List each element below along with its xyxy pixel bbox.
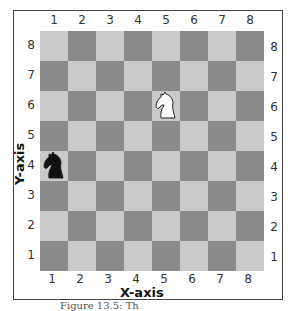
board-square [180,121,208,151]
board-square [236,211,264,241]
row-label: 5 [267,130,281,144]
row-label: 2 [267,220,281,234]
x-axis-label: X-axis [120,285,164,300]
board-square [180,151,208,181]
board-square [40,211,68,241]
board-square [208,211,236,241]
board-square [180,31,208,61]
board-square [180,61,208,91]
black-knight-icon [41,151,67,181]
col-label: 3 [94,272,122,286]
board-square [208,241,236,271]
row-label: 4 [267,160,281,174]
board-square [152,241,180,271]
board-square [40,181,68,211]
board-square [124,181,152,211]
board-square [124,61,152,91]
row-label: 1 [24,248,38,262]
board-square [68,151,96,181]
board-square [68,211,96,241]
row-label: 6 [267,100,281,114]
board-square [68,241,96,271]
col-label: 3 [96,13,124,27]
board-square [40,91,68,121]
board-square [180,91,208,121]
col-label: 4 [122,272,150,286]
board-square [236,91,264,121]
col-label: 5 [152,13,180,27]
board-square [96,181,124,211]
board-square [40,31,68,61]
board-square [40,61,68,91]
board-square [152,211,180,241]
board-square [152,91,180,121]
board-square [236,241,264,271]
row-label: 7 [24,68,38,82]
board-square [180,181,208,211]
figure-caption: Figure 13.5: Th [60,300,139,311]
chess-board [40,31,264,271]
board-square [124,151,152,181]
board-square [68,181,96,211]
board-square [236,181,264,211]
board-square [236,31,264,61]
row-label: 6 [24,98,38,112]
col-label: 1 [38,272,66,286]
col-label: 6 [180,13,208,27]
board-square [96,211,124,241]
col-label: 1 [40,13,68,27]
board-square [124,31,152,61]
board-square [208,61,236,91]
col-label: 4 [124,13,152,27]
board-square [124,91,152,121]
board-square [236,151,264,181]
board-square [68,61,96,91]
board-square [96,91,124,121]
board-square [96,31,124,61]
row-label: 7 [267,70,281,84]
board-square [208,151,236,181]
col-label: 2 [66,272,94,286]
row-label: 3 [267,190,281,204]
board-square [152,181,180,211]
board-square [40,121,68,151]
board-square [68,91,96,121]
col-label: 7 [206,272,234,286]
board-square [152,151,180,181]
col-label: 6 [178,272,206,286]
board-square [208,31,236,61]
board-square [96,61,124,91]
y-axis-label: Y-axis [12,143,27,185]
board-square [68,121,96,151]
col-label: 5 [150,272,178,286]
board-square [96,151,124,181]
row-label: 3 [24,188,38,202]
board-square [180,241,208,271]
board-square [208,181,236,211]
board-square [40,241,68,271]
col-label: 7 [208,13,236,27]
board-square [68,31,96,61]
row-label: 8 [24,38,38,52]
row-label: 5 [24,128,38,142]
board-square [208,91,236,121]
board-square [208,121,236,151]
board-square [236,121,264,151]
board-square [40,151,68,181]
board-square [124,241,152,271]
row-label: 2 [24,218,38,232]
board-square [180,211,208,241]
board-square [152,121,180,151]
board-square [152,61,180,91]
col-label: 2 [68,13,96,27]
col-label: 8 [234,272,262,286]
board-square [236,61,264,91]
white-knight-icon [153,91,179,121]
board-square [124,211,152,241]
board-square [96,121,124,151]
col-label: 8 [236,13,264,27]
board-square [152,31,180,61]
row-label: 8 [267,40,281,54]
board-square [96,241,124,271]
board-square [124,121,152,151]
